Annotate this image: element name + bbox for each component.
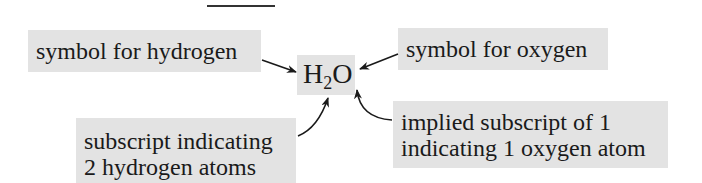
arrows-layer bbox=[0, 0, 702, 183]
arrow-to-implied bbox=[357, 90, 392, 120]
arrow-to-subscript bbox=[298, 98, 328, 136]
arrow-to-hydrogen bbox=[262, 60, 296, 72]
arrow-to-oxygen bbox=[360, 54, 398, 69]
